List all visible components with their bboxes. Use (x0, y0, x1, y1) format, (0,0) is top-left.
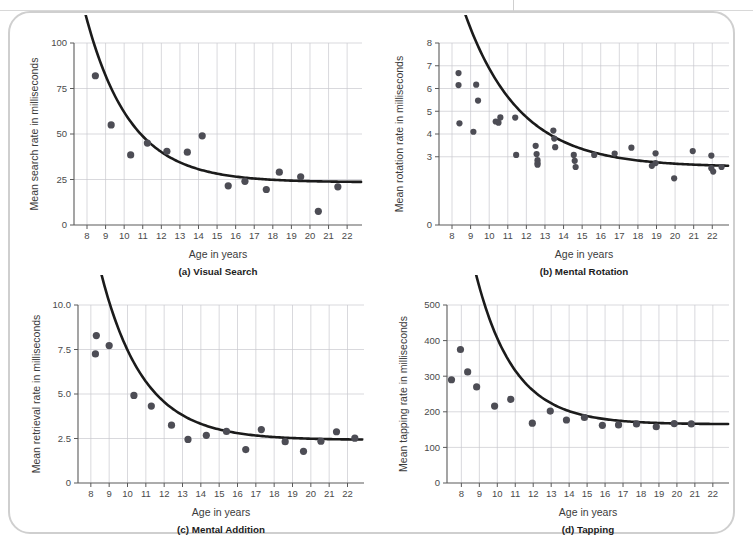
y-tick-label: 0 (435, 477, 440, 488)
data-point (282, 438, 289, 445)
x-tick-label: 10 (122, 488, 133, 499)
data-point (163, 148, 170, 155)
data-point (108, 121, 115, 128)
data-point (475, 97, 481, 103)
x-tick-label: 8 (449, 230, 454, 241)
y-tick-label: 10.0 (53, 299, 72, 310)
y-tick-label: 300 (424, 371, 440, 382)
data-point (334, 183, 341, 190)
x-tick-label: 17 (618, 488, 629, 499)
data-point (533, 143, 539, 149)
y-tick-label: 25 (56, 174, 67, 185)
data-point (708, 153, 714, 159)
x-tick-label: 14 (193, 230, 204, 241)
x-tick-label: 16 (600, 488, 611, 499)
data-point (599, 422, 606, 429)
x-tick-label: 11 (503, 230, 513, 241)
figure-card: 02550751008910111213141516171819202122Ag… (8, 11, 735, 534)
y-tick-label: 3 (427, 151, 432, 162)
data-point (550, 127, 556, 133)
x-tick-label: 17 (614, 230, 625, 241)
x-tick-label: 21 (690, 488, 701, 499)
y-tick-label: 0 (427, 219, 432, 230)
visual-search-plot: 02550751008910111213141516171819202122Ag… (12, 15, 375, 277)
data-point (529, 420, 536, 427)
x-axis-title: Age in years (559, 506, 617, 518)
x-tick-label: 19 (287, 488, 298, 499)
y-tick-label: 7.5 (58, 344, 71, 355)
x-tick-label: 20 (305, 230, 316, 241)
x-tick-label: 11 (138, 230, 148, 241)
data-point (513, 152, 519, 158)
x-tick-label: 12 (156, 230, 167, 241)
x-tick-label: 12 (159, 488, 170, 499)
x-tick-label: 21 (324, 488, 335, 499)
data-point (127, 151, 134, 158)
chart-panel-b: 03456788910111213141516171819202122Age i… (377, 15, 740, 277)
data-point (572, 158, 578, 164)
data-point (455, 82, 461, 88)
y-tick-label: 7 (427, 60, 432, 71)
data-point (497, 114, 503, 120)
data-point (184, 149, 191, 156)
x-tick-label: 13 (546, 488, 557, 499)
tapping-plot: 0100200300400500891011121314151617181920… (377, 275, 740, 537)
data-point (199, 132, 206, 139)
data-point (315, 208, 322, 215)
x-tick-label: 14 (564, 488, 575, 499)
data-point (241, 178, 248, 185)
x-tick-label: 13 (175, 230, 186, 241)
data-point (512, 115, 518, 121)
x-tick-label: 20 (672, 488, 683, 499)
x-tick-label: 8 (459, 488, 464, 499)
data-point (507, 396, 514, 403)
x-tick-label: 9 (468, 230, 473, 241)
x-tick-label: 11 (510, 488, 520, 499)
data-point (333, 428, 340, 435)
x-tick-label: 9 (107, 488, 112, 499)
data-point (203, 432, 210, 439)
data-point (470, 129, 476, 135)
data-point (242, 446, 249, 453)
data-point (615, 421, 622, 428)
y-axis-title: Mean search rate in milliseconds (28, 58, 40, 211)
data-point (573, 164, 579, 170)
x-tick-label: 13 (177, 488, 188, 499)
data-point (633, 420, 640, 427)
y-axis-title: Mean rotation rate in milliseconds (393, 56, 405, 212)
x-tick-label: 13 (540, 230, 551, 241)
x-tick-label: 11 (141, 488, 151, 499)
data-point (718, 164, 724, 170)
y-tick-label: 8 (427, 37, 432, 48)
x-tick-label: 17 (249, 230, 260, 241)
x-tick-label: 22 (708, 488, 719, 499)
x-tick-label: 16 (230, 230, 241, 241)
y-tick-label: 0 (66, 477, 71, 488)
data-point (184, 436, 191, 443)
data-point (653, 423, 660, 430)
x-tick-label: 16 (595, 230, 606, 241)
data-point (92, 350, 99, 357)
x-tick-label: 10 (119, 230, 130, 241)
data-point (457, 346, 464, 353)
data-point (93, 332, 100, 339)
chart-panel-c: 02.55.07.510.089101112131415161718192021… (12, 275, 375, 537)
data-point (92, 72, 99, 79)
chart-panel-a: 02550751008910111213141516171819202122Ag… (12, 15, 375, 277)
x-tick-label: 16 (232, 488, 243, 499)
x-tick-label: 21 (323, 230, 334, 241)
data-point (456, 120, 462, 126)
x-tick-label: 8 (88, 488, 93, 499)
y-tick-label: 50 (56, 128, 67, 139)
data-point (225, 182, 232, 189)
x-tick-label: 22 (342, 488, 353, 499)
data-point (448, 376, 455, 383)
x-tick-label: 15 (582, 488, 593, 499)
data-point (276, 169, 283, 176)
y-axis-title: Mean tapping rate in milliseconds (397, 316, 409, 472)
fit-curve (87, 275, 362, 440)
x-tick-label: 19 (651, 230, 662, 241)
data-point (473, 82, 479, 88)
y-tick-label: 4 (427, 128, 432, 139)
data-point (223, 428, 230, 435)
